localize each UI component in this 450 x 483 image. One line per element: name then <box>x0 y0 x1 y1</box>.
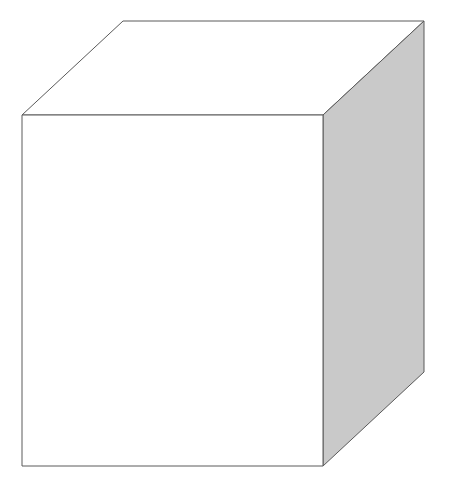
cube-front-face <box>22 115 323 466</box>
cuboid-diagram <box>0 0 450 483</box>
